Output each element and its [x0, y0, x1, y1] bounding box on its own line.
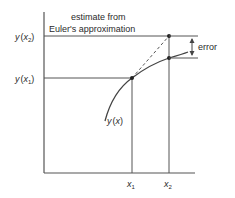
annotation-line1: estimate from	[71, 12, 126, 22]
y-x1-label: y(x1)	[14, 74, 34, 85]
annotation-line2: Euler's approximation	[49, 24, 135, 34]
x2-label: x2	[163, 179, 173, 190]
error-label: error	[198, 42, 217, 52]
x1-label: x1	[126, 179, 136, 190]
y-x2-label: y(x2)	[14, 32, 34, 43]
solution-curve	[105, 52, 188, 121]
euler-diagram: estimate from Euler's approximation erro…	[0, 0, 235, 198]
point-x1	[130, 76, 134, 80]
euler-tangent-dashed	[132, 36, 169, 78]
error-arrow-icon	[190, 38, 195, 56]
curve-label: y(x)	[106, 116, 123, 126]
